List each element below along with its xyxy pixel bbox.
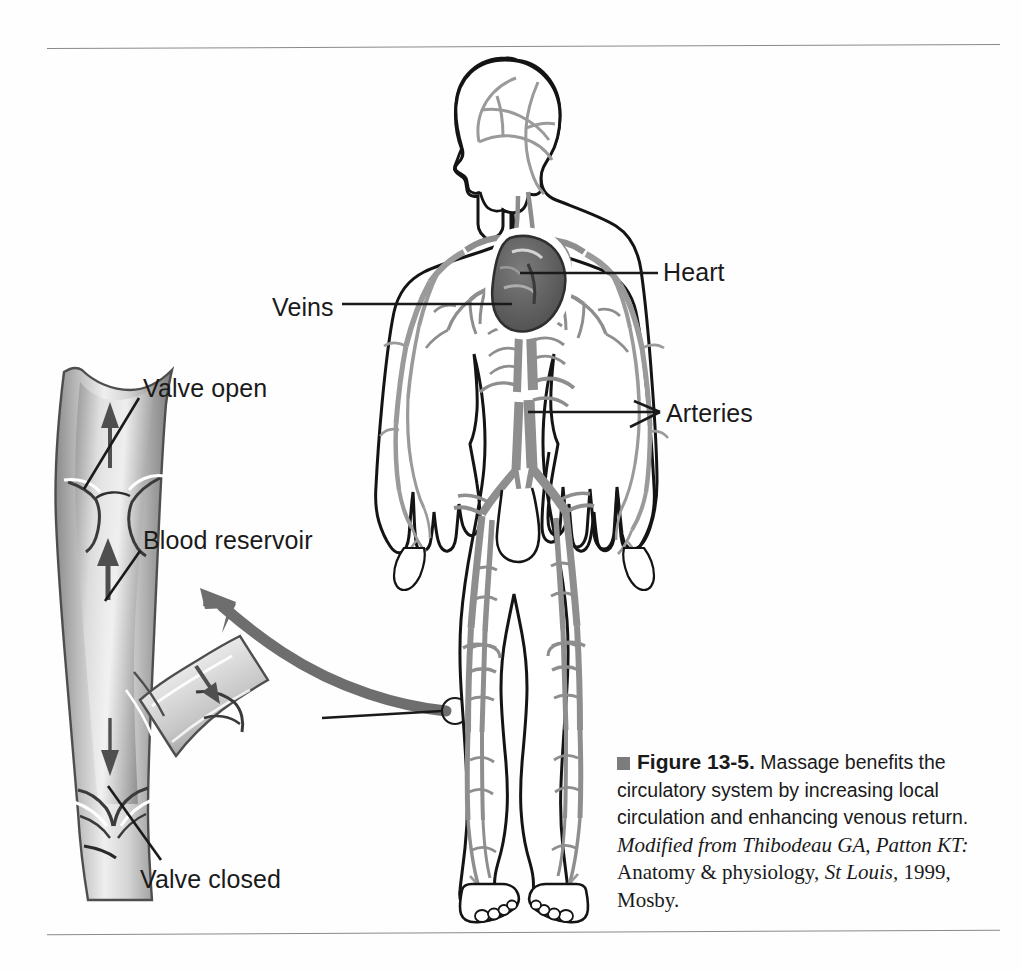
caption-source-italic-1: Modified from Thibodeau GA, Patton KT: xyxy=(617,833,969,857)
figure-page: Valve open Blood reservoir Valve closed … xyxy=(0,0,1021,972)
label-heart: Heart xyxy=(663,258,725,287)
figure-word: Figure xyxy=(637,750,701,773)
label-blood-reservoir: Blood reservoir xyxy=(143,526,313,555)
figure-bullet-icon xyxy=(617,757,630,770)
label-arteries: Arteries xyxy=(666,399,753,428)
caption-source-roman-1: Anatomy & physiology, xyxy=(617,860,819,884)
figure-number-period: . xyxy=(749,750,755,773)
figure-caption: Figure 13-5. Massage benefits the circul… xyxy=(617,748,997,914)
heart xyxy=(489,231,569,335)
vein-cross-section-diagram xyxy=(55,368,268,900)
figure-number-value: 13-5 xyxy=(707,750,749,773)
label-veins: Veins xyxy=(272,293,334,322)
caption-source-italic-2: St Louis, xyxy=(825,860,899,884)
leader-callout xyxy=(322,711,442,718)
label-valve-closed: Valve closed xyxy=(140,865,281,894)
label-valve-open: Valve open xyxy=(143,374,267,403)
pelvis-outline xyxy=(497,488,539,562)
vein-branch xyxy=(140,636,268,756)
